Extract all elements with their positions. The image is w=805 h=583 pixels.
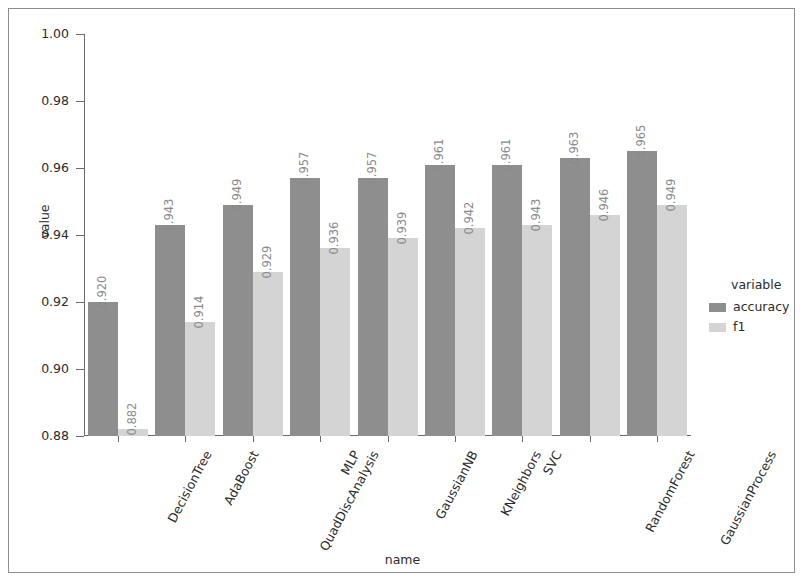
y-tick-label: 0.92 <box>23 296 69 309</box>
bar-value-label: 0.961 <box>501 138 513 171</box>
bar-value-label: 0.963 <box>568 132 580 165</box>
bar-accuracy <box>627 151 657 436</box>
x-category-label: GaussianProcess <box>719 449 779 547</box>
bar-accuracy <box>88 302 118 436</box>
bar-value-label: 0.949 <box>666 178 678 211</box>
x-tick-mark <box>590 436 591 442</box>
x-category-label: GaussianNB <box>433 449 479 521</box>
x-category-label: AdaBoost <box>223 449 262 507</box>
bar-value-label: 0.939 <box>396 212 408 245</box>
figure-panel: value name 0.880.900.920.940.960.981.00 … <box>8 8 795 573</box>
y-tick-label: 0.90 <box>23 363 69 376</box>
legend-item-accuracy[interactable]: accuracy <box>709 299 804 316</box>
bar-accuracy <box>223 205 253 436</box>
y-tick-mark <box>76 369 84 370</box>
bar-f1 <box>185 322 215 436</box>
legend-item-label: accuracy <box>733 301 789 314</box>
legend-items: accuracyf1 <box>709 299 804 336</box>
x-tick-mark <box>320 436 321 442</box>
x-tick-mark <box>118 436 119 442</box>
x-category-label: DecisionTree <box>166 449 214 525</box>
legend: variable accuracyf1 <box>709 277 804 339</box>
bar-f1 <box>253 272 283 436</box>
bar-value-label: 0.882 <box>126 403 138 436</box>
x-category-label: RandomForest <box>644 449 697 534</box>
bar-f1 <box>388 238 418 436</box>
bar-value-label: 0.942 <box>463 202 475 235</box>
bar-value-label: 0.957 <box>299 152 311 185</box>
bar-accuracy <box>155 225 185 436</box>
legend-swatch-icon <box>709 303 726 312</box>
y-tick-mark <box>76 235 84 236</box>
x-category-label: KNeighbors <box>499 449 544 518</box>
bar-f1 <box>522 225 552 436</box>
x-category-label: SVC <box>542 449 565 477</box>
bar-accuracy <box>290 178 320 436</box>
bar-accuracy <box>358 178 388 436</box>
bar-f1 <box>320 248 350 436</box>
y-tick-mark <box>76 436 84 437</box>
bar-value-label: 0.961 <box>433 138 445 171</box>
bar-value-label: 0.914 <box>194 296 206 329</box>
y-tick-label: 0.88 <box>23 430 69 443</box>
bar-value-label: 0.965 <box>636 125 648 158</box>
bar-f1 <box>590 215 620 436</box>
y-tick-mark <box>76 302 84 303</box>
bar-value-label: 0.946 <box>598 188 610 221</box>
bar-value-label: 0.936 <box>329 222 341 255</box>
x-tick-mark <box>657 436 658 442</box>
bar-value-label: 0.957 <box>366 152 378 185</box>
y-tick-label: 0.94 <box>23 229 69 242</box>
y-tick-mark <box>76 168 84 169</box>
x-axis-title: name <box>9 552 796 567</box>
legend-item-label: f1 <box>733 321 745 334</box>
bar-value-label: 0.943 <box>531 199 543 232</box>
bar-value-label: 0.949 <box>231 178 243 211</box>
x-tick-mark <box>388 436 389 442</box>
bar-f1 <box>657 205 687 436</box>
y-tick-label: 0.98 <box>23 95 69 108</box>
y-tick-label: 1.00 <box>23 28 69 41</box>
legend-title: variable <box>731 277 804 292</box>
bar-value-label: 0.920 <box>96 276 108 309</box>
plot-area: 0.9200.8820.9430.9140.9490.9290.9570.936… <box>84 34 691 436</box>
bar-accuracy <box>425 165 455 436</box>
bar-value-label: 0.929 <box>261 245 273 278</box>
legend-swatch-icon <box>709 323 726 332</box>
y-tick-label: 0.96 <box>23 162 69 175</box>
bar-accuracy <box>492 165 522 436</box>
bar-f1 <box>455 228 485 436</box>
bar-value-label: 0.943 <box>164 199 176 232</box>
bar-accuracy <box>560 158 590 436</box>
y-tick-mark <box>76 34 84 35</box>
x-tick-mark <box>253 436 254 442</box>
x-tick-mark <box>185 436 186 442</box>
x-tick-mark <box>455 436 456 442</box>
y-tick-mark <box>76 101 84 102</box>
legend-item-f1[interactable]: f1 <box>709 319 804 336</box>
x-tick-mark <box>522 436 523 442</box>
